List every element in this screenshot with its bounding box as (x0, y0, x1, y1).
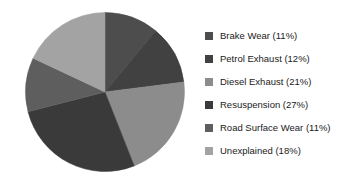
pie-svg (25, 12, 185, 172)
legend-swatch-icon (205, 32, 213, 40)
legend-item: Brake Wear (11%) (205, 24, 355, 47)
legend-item: Unexplained (18%) (205, 139, 355, 162)
legend-label: Unexplained (18%) (220, 145, 301, 156)
legend-swatch-icon (205, 101, 213, 109)
legend-label: Road Surface Wear (11%) (220, 122, 331, 133)
legend-swatch-icon (205, 147, 213, 155)
legend-label: Petrol Exhaust (12%) (220, 53, 310, 64)
legend-swatch-icon (205, 55, 213, 63)
legend-swatch-icon (205, 78, 213, 86)
legend-item: Road Surface Wear (11%) (205, 116, 355, 139)
legend-label: Diesel Exhaust (21%) (220, 76, 311, 87)
legend-item: Petrol Exhaust (12%) (205, 47, 355, 70)
legend-swatch-icon (205, 124, 213, 132)
legend-label: Resuspension (27%) (220, 99, 308, 110)
legend-item: Diesel Exhaust (21%) (205, 70, 355, 93)
chart-legend: Brake Wear (11%)Petrol Exhaust (12%)Dies… (205, 24, 355, 162)
legend-item: Resuspension (27%) (205, 93, 355, 116)
pie-chart-figure: Brake Wear (11%)Petrol Exhaust (12%)Dies… (0, 0, 355, 187)
pie-chart-plot-area (25, 12, 185, 172)
legend-label: Brake Wear (11%) (220, 30, 297, 41)
